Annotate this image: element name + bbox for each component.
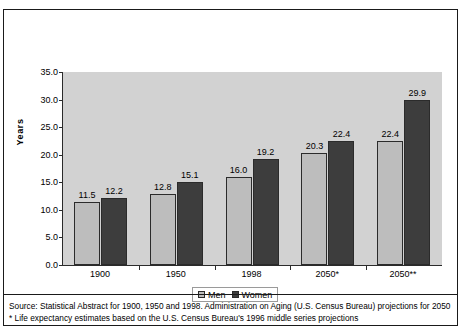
bar-group: 16.019.2 xyxy=(215,72,291,265)
y-tick-label: 5.0 xyxy=(24,233,58,242)
x-tick-label: 2050* xyxy=(289,269,365,279)
bar-women[interactable] xyxy=(404,100,430,265)
bar-series-container: 11.512.212.815.116.019.220.322.422.429.9 xyxy=(63,72,442,265)
bar-women[interactable] xyxy=(328,141,354,265)
y-tick-mark xyxy=(59,182,63,183)
bar-value-label: 15.1 xyxy=(170,171,210,180)
bar-group: 22.429.9 xyxy=(366,72,442,265)
y-tick-label: 35.0 xyxy=(24,68,58,77)
y-tick-label: 30.0 xyxy=(24,95,58,104)
footnotes-block: Source: Statistical Abstract for 1900, 1… xyxy=(9,300,454,324)
bar-men[interactable] xyxy=(226,177,252,265)
bar-value-label: 12.2 xyxy=(94,187,134,196)
y-tick-mark xyxy=(59,100,63,101)
y-tick-mark xyxy=(59,127,63,128)
y-tick-mark xyxy=(59,72,63,73)
y-tick-mark xyxy=(59,155,63,156)
bar-women[interactable] xyxy=(177,182,203,265)
bar-men[interactable] xyxy=(377,141,403,265)
bar-women[interactable] xyxy=(253,159,279,265)
bar-group: 20.322.4 xyxy=(290,72,366,265)
x-tick-label: 1998 xyxy=(214,269,290,279)
y-tick-label: 10.0 xyxy=(24,205,58,214)
bar-men[interactable] xyxy=(301,153,327,265)
y-tick-label: 0.0 xyxy=(24,261,58,270)
x-tick-label: 1950 xyxy=(138,269,214,279)
y-tick-mark xyxy=(59,210,63,211)
bar-group: 11.512.2 xyxy=(63,72,139,265)
figure-frame: Years 35.030.025.020.015.010.05.00.0 11.… xyxy=(3,9,458,326)
y-tick-label: 20.0 xyxy=(24,150,58,159)
chart-area: Years 35.030.025.020.015.010.05.00.0 11.… xyxy=(4,10,457,293)
bar-women[interactable] xyxy=(101,198,127,265)
y-tick-mark xyxy=(59,237,63,238)
y-tick-mark xyxy=(59,265,63,266)
footnote-source: Source: Statistical Abstract for 1900, 1… xyxy=(9,300,454,312)
bar-value-label: 29.9 xyxy=(397,89,437,98)
footnote-separator xyxy=(4,294,457,295)
bar-group: 12.815.1 xyxy=(139,72,215,265)
bar-value-label: 19.2 xyxy=(246,148,286,157)
footnote-asterisk: * Life expectancy estimates based on the… xyxy=(9,312,454,324)
x-tick-label: 2050** xyxy=(365,269,441,279)
x-tick-label: 1900 xyxy=(62,269,138,279)
y-axis-tick-labels: 35.030.025.020.015.010.05.00.0 xyxy=(24,72,58,265)
bar-men[interactable] xyxy=(74,202,100,265)
plot-area: 11.512.212.815.116.019.220.322.422.429.9 xyxy=(62,72,442,266)
y-tick-label: 25.0 xyxy=(24,123,58,132)
bar-value-label: 22.4 xyxy=(321,130,361,139)
y-tick-label: 15.0 xyxy=(24,178,58,187)
x-axis-tick-labels: 1900195019982050*2050** xyxy=(62,269,441,283)
bar-men[interactable] xyxy=(150,194,176,265)
